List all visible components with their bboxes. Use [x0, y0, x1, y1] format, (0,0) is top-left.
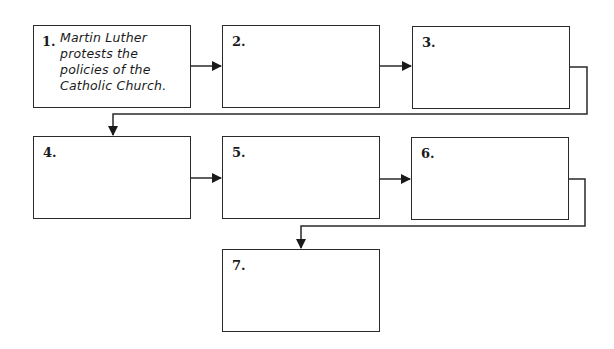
- flowchart: 1. Martin Luther protests the policies o…: [0, 0, 614, 349]
- step-box-7[interactable]: 7.: [222, 249, 380, 332]
- step-box-6[interactable]: 6.: [411, 137, 569, 220]
- step-box-5[interactable]: 5.: [222, 136, 380, 219]
- step-box-4[interactable]: 4.: [33, 136, 191, 219]
- step-text-line: Catholic Church.: [60, 78, 190, 94]
- step-text-line: Martin Luther: [60, 30, 190, 46]
- step-number: 4.: [43, 145, 57, 160]
- step-number: 1.: [42, 34, 56, 49]
- step-number: 5.: [232, 145, 246, 160]
- step-number: 2.: [232, 34, 246, 49]
- step-box-2[interactable]: 2.: [222, 25, 380, 108]
- step-box-1: 1. Martin Luther protests the policies o…: [33, 25, 191, 108]
- step-text: Martin Luther protests the policies of t…: [60, 30, 190, 94]
- step-box-3[interactable]: 3.: [412, 26, 570, 109]
- step-number: 3.: [422, 35, 436, 50]
- step-text-line: protests the: [60, 46, 190, 62]
- step-number: 6.: [421, 146, 435, 161]
- step-text-line: policies of the: [60, 62, 190, 78]
- step-number: 7.: [232, 258, 246, 273]
